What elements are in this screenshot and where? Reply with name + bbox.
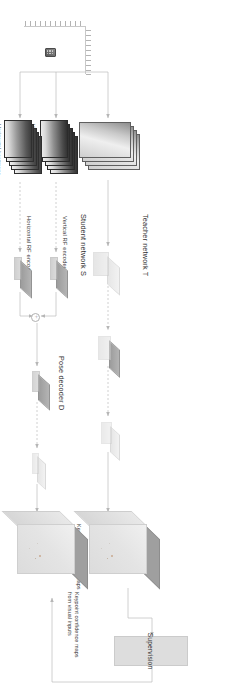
conv-body xyxy=(32,371,40,392)
antenna-element xyxy=(86,40,91,41)
antenna-element xyxy=(80,21,81,26)
label-supervision: Supervision xyxy=(148,633,155,670)
node-horizontal-heatmaps[interactable] xyxy=(0,120,42,182)
antenna-element xyxy=(86,74,91,75)
antenna-element xyxy=(60,21,61,26)
antenna-element xyxy=(55,21,56,26)
label-pose-decoder: Pose decoder D xyxy=(57,356,66,410)
keypoint-dot xyxy=(111,555,113,557)
node-student-output-volume[interactable] xyxy=(16,524,88,588)
antenna-element xyxy=(35,21,36,26)
edge-teacher-to-supervision xyxy=(128,588,152,636)
antenna-element xyxy=(75,21,76,26)
antenna-element xyxy=(25,21,26,26)
antenna-element xyxy=(45,21,46,26)
antenna-element xyxy=(86,60,91,61)
conv-body xyxy=(98,336,111,360)
antenna-array xyxy=(12,26,98,82)
heatmap-card xyxy=(40,120,68,158)
radar-sensor-icon xyxy=(45,48,56,57)
antenna-element xyxy=(86,45,91,46)
keypoint-dot xyxy=(107,558,108,559)
antenna-element xyxy=(50,21,51,26)
antenna-rail-vertical xyxy=(24,26,86,27)
antenna-element xyxy=(86,30,91,31)
cube-front-face xyxy=(89,524,147,574)
antenna-element xyxy=(86,70,91,71)
label-teacher-network: Teacher network T xyxy=(141,214,150,276)
heatmap-card xyxy=(4,120,32,158)
antenna-element xyxy=(86,50,91,51)
node-rgb-frames[interactable] xyxy=(78,120,140,180)
node-horizontal-encoder-slab[interactable] xyxy=(4,252,38,294)
node-decoder-slab-2[interactable] xyxy=(20,448,50,488)
node-teacher-output-volume[interactable] xyxy=(88,524,160,588)
label-merge-operator: + xyxy=(33,315,39,318)
cube-front-face xyxy=(17,524,75,574)
label-student-network: Student network S xyxy=(79,214,88,276)
antenna-element xyxy=(86,55,91,56)
label-keypoint-maps-student: Keypoint confidence maps from visual inp… xyxy=(66,592,80,658)
keypoint-dot xyxy=(35,558,36,559)
antenna-element xyxy=(70,21,71,26)
antenna-element xyxy=(40,21,41,26)
conv-body xyxy=(93,252,109,276)
architecture-figure: RGB frames Vertical heatmaps Horizontal … xyxy=(0,0,248,700)
keypoint-dot xyxy=(39,555,41,557)
conv-body xyxy=(32,453,39,474)
conv-body xyxy=(101,422,112,444)
antenna-element xyxy=(65,21,66,26)
node-vertical-encoder-slab[interactable] xyxy=(40,252,74,294)
frame-card xyxy=(79,122,131,158)
keypoint-dot xyxy=(37,543,38,544)
diagram-canvas: RGB frames Vertical heatmaps Horizontal … xyxy=(0,0,248,700)
antenna-element xyxy=(86,65,91,66)
antenna-element xyxy=(30,21,31,26)
conv-body xyxy=(50,257,58,280)
node-supervision-box[interactable]: Supervision xyxy=(114,636,188,666)
antenna-element xyxy=(86,35,91,36)
keypoint-dot xyxy=(101,548,102,549)
keypoint-dot xyxy=(109,543,110,544)
node-teacher-conv-2[interactable] xyxy=(86,330,130,370)
conv-body xyxy=(14,257,22,280)
node-decoder-slab-1[interactable] xyxy=(20,366,54,406)
node-teacher-conv-1[interactable] xyxy=(86,246,130,286)
keypoint-dot xyxy=(29,548,30,549)
edge-vertical-encoder-to-merge xyxy=(41,292,56,316)
node-teacher-conv-3[interactable] xyxy=(88,416,128,456)
label-horizontal-heatmaps: Horizontal heatmaps xyxy=(0,124,2,175)
